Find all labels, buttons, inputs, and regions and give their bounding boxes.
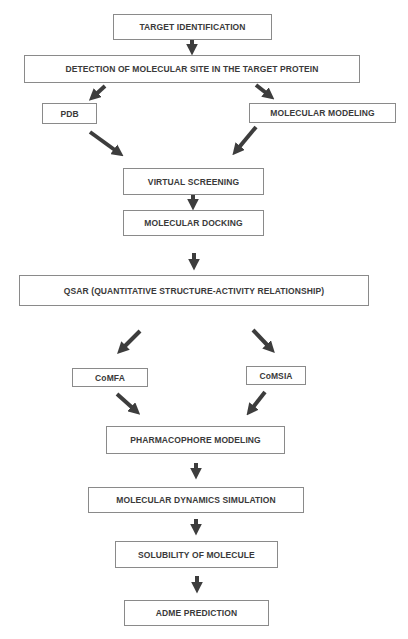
- node-molecular-dynamics-simulation: MOLECULAR DYNAMICS SIMULATION: [88, 487, 304, 513]
- node-label: MOLECULAR DYNAMICS SIMULATION: [116, 495, 276, 505]
- node-label: DETECTION OF MOLECULAR SITE IN THE TARGE…: [65, 64, 318, 74]
- node-virtual-screening: VIRTUAL SCREENING: [123, 168, 264, 195]
- node-label: PHARMACOPHORE MODELING: [130, 435, 261, 445]
- node-molecular-docking: MOLECULAR DOCKING: [123, 210, 264, 236]
- node-label: MOLECULAR MODELING: [270, 108, 374, 118]
- node-comsia: CoMSIA: [246, 366, 306, 385]
- arrow-down-left-icon: [250, 392, 265, 411]
- node-label: SOLUBILITY OF MOLECULE: [138, 550, 255, 560]
- node-label: CoMSIA: [259, 371, 292, 381]
- node-label: ADME PREDICTION: [156, 608, 237, 618]
- node-target-identification: TARGET IDENTIFICATION: [113, 14, 272, 40]
- node-label: PDB: [60, 109, 78, 119]
- arrow-down-left-icon: [121, 331, 140, 350]
- node-pharmacophore-modeling: PHARMACOPHORE MODELING: [106, 426, 285, 454]
- node-qsar: QSAR (QUANTITATIVE STRUCTURE-ACTIVITY RE…: [19, 275, 369, 306]
- node-adme-prediction: ADME PREDICTION: [124, 600, 269, 626]
- node-detection-molecular-site: DETECTION OF MOLECULAR SITE IN THE TARGE…: [24, 55, 360, 83]
- node-label: VIRTUAL SCREENING: [148, 177, 239, 187]
- arrow-down-left-icon: [93, 86, 105, 97]
- node-label: MOLECULAR DOCKING: [144, 218, 243, 228]
- node-molecular-modeling: MOLECULAR MODELING: [249, 103, 396, 123]
- node-label: TARGET IDENTIFICATION: [139, 22, 245, 32]
- arrow-down-right-icon: [256, 85, 270, 96]
- node-solubility-of-molecule: SOLUBILITY OF MOLECULE: [115, 541, 278, 568]
- node-comfa: CoMFA: [72, 368, 148, 387]
- node-pdb: PDB: [42, 103, 97, 124]
- arrow-down-right-icon: [253, 330, 271, 349]
- arrow-down-right-icon: [117, 394, 136, 411]
- arrow-down-right-icon: [90, 132, 119, 153]
- node-label: QSAR (QUANTITATIVE STRUCTURE-ACTIVITY RE…: [64, 286, 324, 296]
- arrow-down-left-icon: [236, 127, 256, 151]
- node-label: CoMFA: [95, 373, 125, 383]
